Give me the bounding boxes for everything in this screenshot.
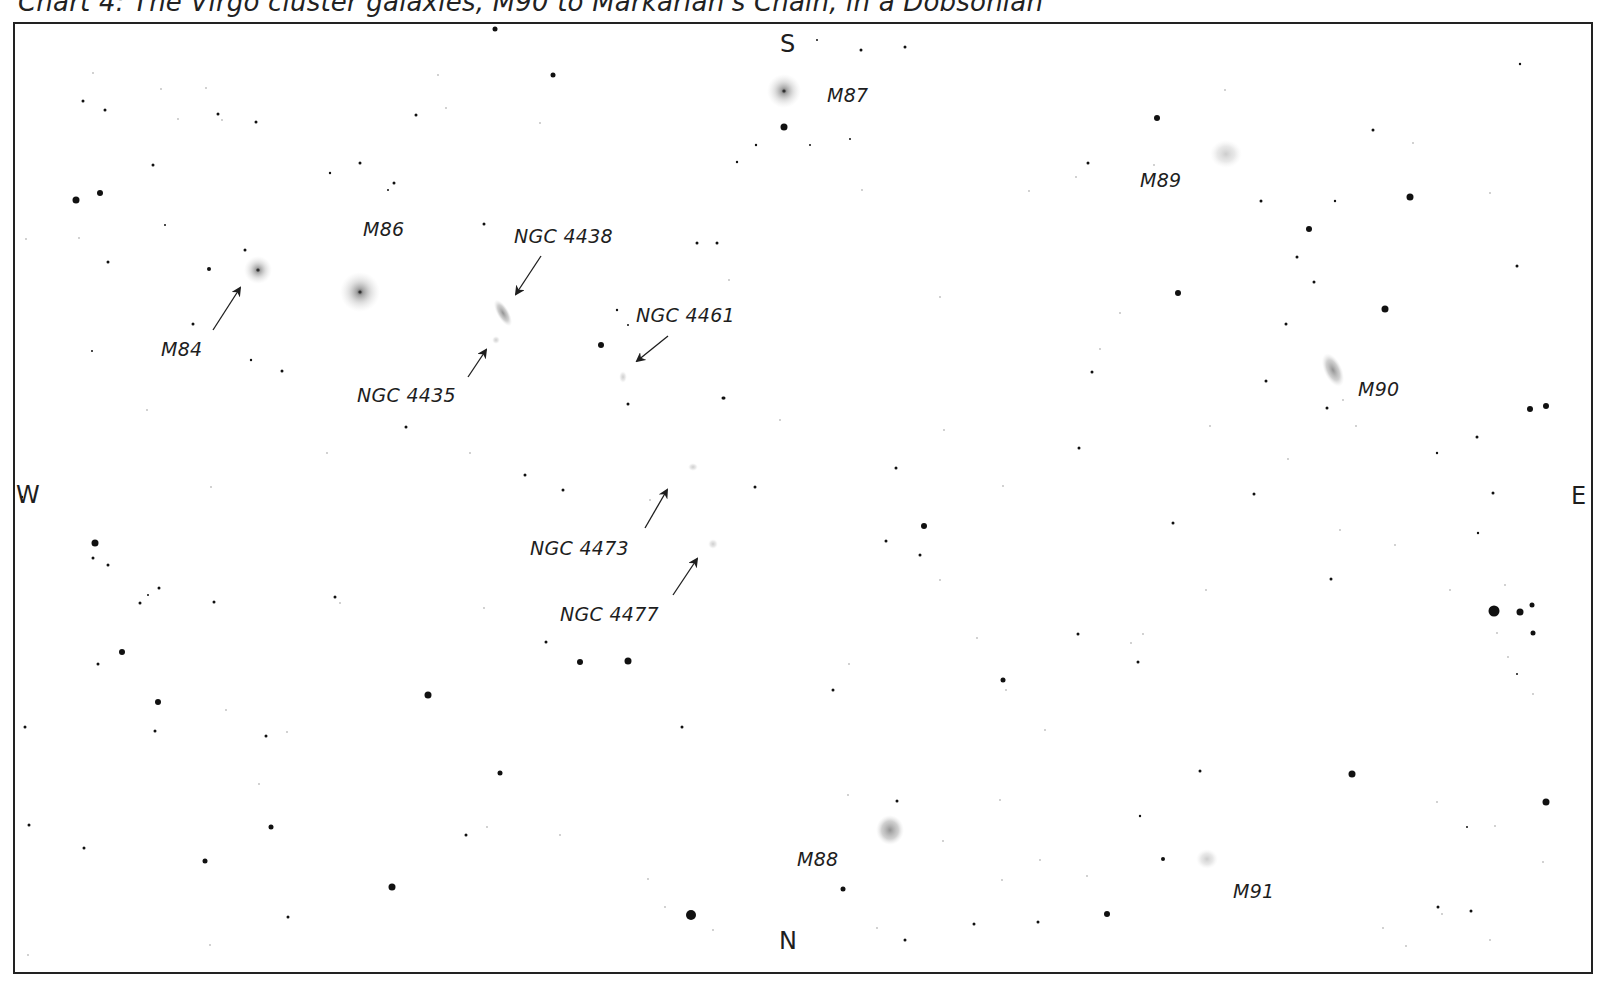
- star: [152, 164, 155, 167]
- faint-star: [876, 927, 878, 929]
- faint-star: [27, 954, 29, 956]
- faint-star: [1209, 425, 1211, 427]
- faint-star: [539, 122, 541, 124]
- faint-star: [728, 279, 730, 281]
- faint-star: [483, 607, 485, 609]
- star: [1253, 493, 1256, 496]
- galaxy-ngc4461[interactable]: [619, 371, 627, 383]
- faint-star: [1039, 859, 1041, 861]
- galaxy-label: M89: [1140, 169, 1181, 191]
- star: [1077, 633, 1080, 636]
- star: [104, 109, 107, 112]
- faint-star: [1504, 584, 1506, 586]
- galaxy-label: M84: [161, 338, 202, 360]
- galaxy-label: NGC 4473: [530, 537, 629, 559]
- star: [1349, 771, 1356, 778]
- faint-star: [286, 731, 288, 733]
- faint-star: [177, 118, 179, 120]
- star: [736, 161, 738, 163]
- star: [1543, 799, 1550, 806]
- faint-star: [779, 419, 781, 421]
- faint-star: [1496, 632, 1498, 634]
- faint-star: [1412, 142, 1414, 144]
- arrow-ngc4438: [516, 256, 541, 294]
- star-field: [0, 0, 1599, 996]
- galaxy-ngc4435[interactable]: [492, 336, 500, 344]
- star: [192, 323, 195, 326]
- faint-star: [78, 237, 80, 239]
- compass-south: S: [780, 30, 795, 58]
- faint-star: [486, 826, 488, 828]
- star: [389, 884, 396, 891]
- faint-star: [664, 906, 666, 908]
- star: [896, 800, 899, 803]
- star: [616, 309, 618, 311]
- faint-star: [1494, 825, 1496, 827]
- faint-star: [939, 296, 941, 298]
- star: [334, 596, 337, 599]
- galaxy-label: M88: [797, 848, 838, 870]
- compass-north: N: [779, 927, 797, 955]
- faint-star: [1086, 875, 1088, 877]
- faint-star: [160, 88, 162, 90]
- star: [207, 267, 211, 271]
- faint-star: [1449, 589, 1451, 591]
- galaxy-label: M87: [827, 84, 868, 106]
- star: [1285, 323, 1288, 326]
- star: [1470, 910, 1473, 913]
- galaxy-ngc4477[interactable]: [708, 539, 718, 549]
- galaxy-m86[interactable]: [340, 272, 380, 312]
- faint-star: [1001, 879, 1003, 881]
- star: [577, 659, 583, 665]
- faint-star: [1355, 425, 1357, 427]
- star: [1091, 371, 1094, 374]
- galaxy-m90[interactable]: [1317, 350, 1349, 390]
- star: [24, 726, 27, 729]
- galaxy-ngc4438[interactable]: [490, 297, 515, 329]
- faint-star: [1005, 689, 1007, 691]
- faint-star: [1099, 348, 1101, 350]
- galaxy-label: NGC 4461: [636, 304, 735, 326]
- star: [904, 939, 907, 942]
- star: [1477, 532, 1479, 534]
- faint-star: [976, 637, 978, 639]
- star: [1519, 63, 1521, 65]
- star: [107, 261, 110, 264]
- star: [425, 692, 432, 699]
- faint-star: [861, 189, 863, 191]
- star: [91, 350, 93, 352]
- faint-star: [1489, 192, 1491, 194]
- faint-star: [1532, 693, 1534, 695]
- star: [716, 242, 719, 245]
- star: [1137, 661, 1140, 664]
- star: [1078, 447, 1081, 450]
- faint-star: [1119, 312, 1121, 314]
- arrow-ngc4473: [645, 490, 667, 528]
- star: [841, 887, 846, 892]
- faint-star: [1339, 529, 1341, 531]
- faint-star: [943, 429, 945, 431]
- galaxy-m87[interactable]: [767, 74, 801, 108]
- galaxy-m88[interactable]: [876, 815, 904, 845]
- galaxy-m89[interactable]: [1210, 140, 1242, 168]
- galaxy-label: M90: [1358, 378, 1399, 400]
- star: [92, 540, 99, 547]
- star: [686, 910, 696, 920]
- galaxy-m84[interactable]: [244, 256, 272, 284]
- star: [158, 587, 161, 590]
- galaxy-label: NGC 4435: [357, 384, 456, 406]
- galaxy-m91[interactable]: [1196, 849, 1218, 869]
- star: [723, 397, 726, 400]
- faint-star: [649, 499, 651, 501]
- star: [1527, 406, 1533, 412]
- galaxy-ngc4473[interactable]: [688, 463, 698, 471]
- compass-east: E: [1571, 482, 1586, 510]
- faint-star: [848, 663, 850, 665]
- star: [483, 223, 486, 226]
- star: [465, 834, 468, 837]
- star: [281, 370, 284, 373]
- galaxy-label: M91: [1233, 880, 1274, 902]
- arrow-ngc4461: [637, 336, 668, 361]
- star: [154, 730, 157, 733]
- faint-star: [1224, 89, 1226, 91]
